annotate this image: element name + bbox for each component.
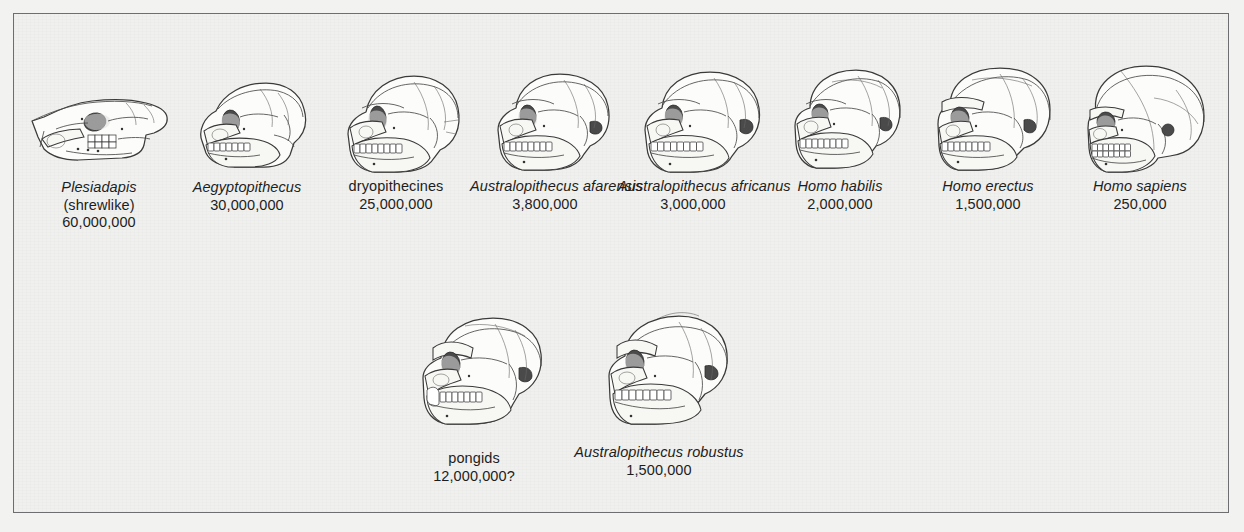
date-value: 1,500,000 — [574, 462, 744, 480]
date-value: 12,000,000? — [394, 468, 554, 486]
date-value: 60,000,000 — [24, 214, 174, 232]
date-value: 2,000,000 — [770, 196, 910, 214]
specimen-homo-sapiens: Homo sapiens 250,000 — [1060, 54, 1220, 213]
skull-illustration-homo-sapiens — [1062, 54, 1218, 178]
latin-name: Homo erectus — [914, 178, 1062, 196]
skull-illustration-aegyptopithecus — [174, 59, 320, 179]
skull-illustration-africanus — [620, 56, 766, 178]
caption-pongids: pongids 12,000,000? — [394, 450, 554, 485]
latin-name: Plesiadapis — [24, 179, 174, 197]
skull-illustration-pongids — [399, 302, 549, 434]
caption-aegyptopithecus: Aegyptopithecus 30,000,000 — [172, 179, 322, 214]
date-value: 25,000,000 — [320, 196, 472, 214]
latin-name: Australopithecus robustus — [574, 444, 744, 462]
caption-afarensis: Australopithecus afarensis 3,800,000 — [470, 178, 620, 213]
latin-name: Aegyptopithecus — [172, 179, 322, 197]
caption-dryopithecines: dryopithecines 25,000,000 — [320, 178, 472, 213]
latin-name: Australopithecus afarensis — [470, 178, 620, 196]
specimen-homo-habilis: Homo habilis 2,000,000 — [770, 56, 910, 213]
specimen-australopithecus-robustus: Australopithecus robustus 1,500,000 — [574, 298, 744, 479]
common-name: dryopithecines — [320, 178, 472, 196]
caption-homo-erectus: Homo erectus 1,500,000 — [914, 178, 1062, 213]
caption-homo-sapiens: Homo sapiens 250,000 — [1060, 178, 1220, 213]
caption-robustus: Australopithecus robustus 1,500,000 — [574, 444, 744, 479]
figure-frame: Plesiadapis (shrewlike) 60,000,000 — [13, 13, 1229, 513]
date-value: 1,500,000 — [914, 196, 1062, 214]
latin-name: Homo habilis — [770, 178, 910, 196]
specimen-australopithecus-afarensis: Australopithecus afarensis 3,800,000 — [470, 56, 620, 213]
skull-illustration-dryopithecines — [322, 56, 470, 178]
common-name: pongids — [394, 450, 554, 468]
caption-homo-habilis: Homo habilis 2,000,000 — [770, 178, 910, 213]
date-value: 3,800,000 — [470, 196, 620, 214]
caption-africanus: Australopithecus africanus 3,000,000 — [618, 178, 768, 213]
specimen-plesiadapis: Plesiadapis (shrewlike) 60,000,000 — [24, 59, 174, 232]
date-value: 3,000,000 — [618, 196, 768, 214]
specimen-pongids: pongids 12,000,000? — [394, 302, 554, 485]
latin-name: Homo sapiens — [1060, 178, 1220, 196]
skull-illustration-robustus — [579, 298, 739, 434]
date-value: 250,000 — [1060, 196, 1220, 214]
latin-name: Australopithecus africanus — [618, 178, 768, 196]
specimen-dryopithecines: dryopithecines 25,000,000 — [320, 56, 472, 213]
specimen-aegyptopithecus: Aegyptopithecus 30,000,000 — [172, 59, 322, 214]
skull-illustration-afarensis — [472, 56, 618, 178]
specimen-australopithecus-africanus: Australopithecus africanus 3,000,000 — [618, 56, 768, 213]
skull-illustration-homo-erectus — [916, 56, 1060, 178]
common-name: (shrewlike) — [24, 197, 174, 215]
skull-illustration-plesiadapis — [26, 59, 172, 179]
skull-illustration-homo-habilis — [772, 56, 908, 178]
date-value: 30,000,000 — [172, 197, 322, 215]
caption-plesiadapis: Plesiadapis (shrewlike) 60,000,000 — [24, 179, 174, 232]
specimen-homo-erectus: Homo erectus 1,500,000 — [914, 56, 1062, 213]
